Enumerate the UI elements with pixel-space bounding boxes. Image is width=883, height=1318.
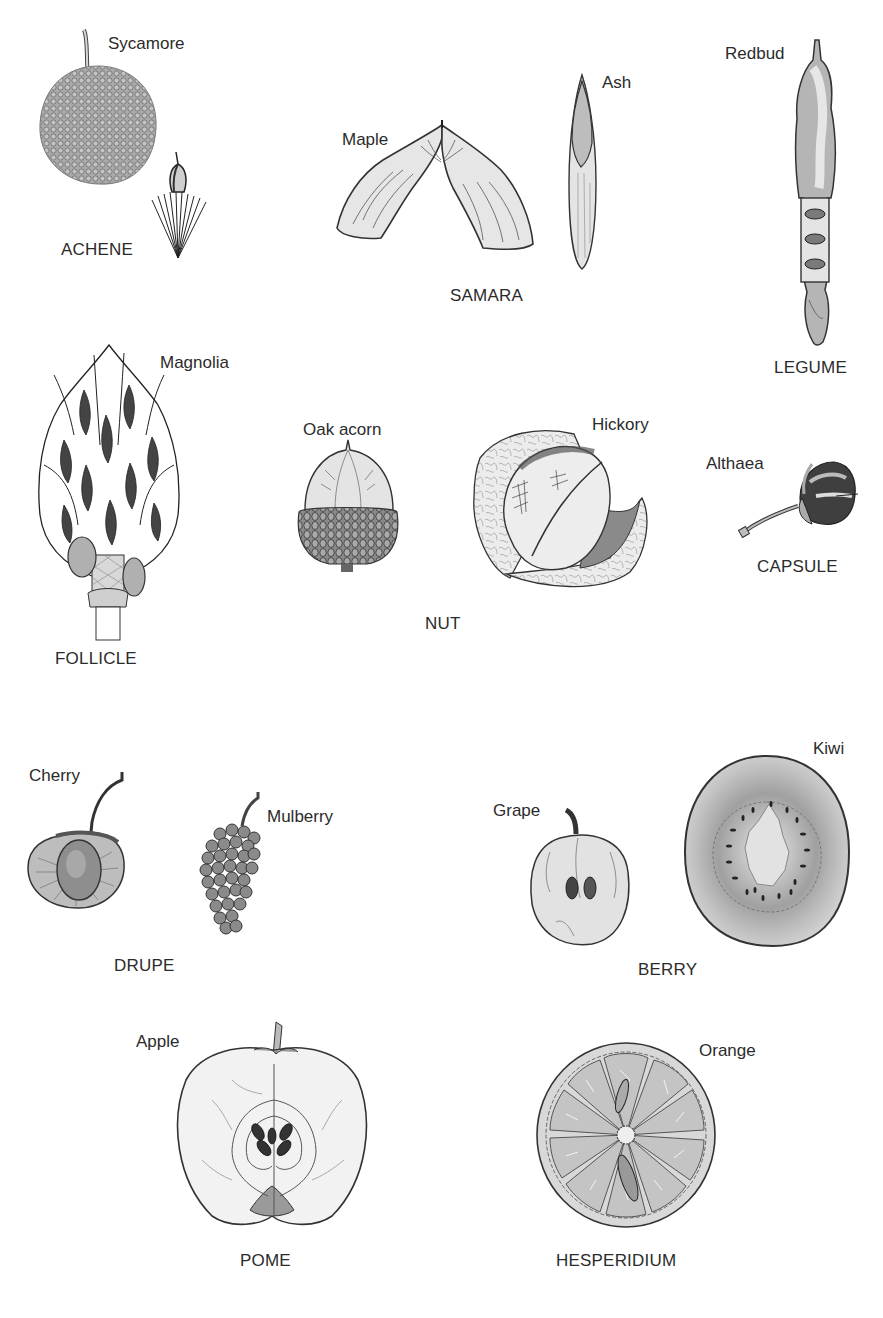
apple-illustration — [172, 1020, 372, 1230]
kiwi-illustration — [683, 752, 853, 948]
redbud-legume-illustration — [785, 38, 847, 348]
ash-samara-illustration — [566, 73, 600, 273]
example-label-cherry: Cherry — [29, 767, 80, 784]
example-label-maple: Maple — [342, 131, 388, 148]
hickory-nut-illustration — [470, 418, 650, 598]
orange-illustration — [534, 1040, 719, 1230]
category-label-hesperidium: HESPERIDIUM — [556, 1252, 676, 1269]
category-label-drupe: DRUPE — [114, 957, 175, 974]
magnolia-follicle-illustration — [34, 345, 184, 640]
example-label-hickory: Hickory — [592, 416, 649, 433]
example-label-mulberry: Mulberry — [267, 808, 333, 825]
example-label-kiwi: Kiwi — [813, 740, 844, 757]
category-label-follicle: FOLLICLE — [55, 650, 137, 667]
example-label-sycamore: Sycamore — [108, 35, 185, 52]
category-label-legume: LEGUME — [774, 359, 847, 376]
example-label-redbud: Redbud — [725, 45, 785, 62]
example-label-grape: Grape — [493, 802, 540, 819]
achene-seed-illustration — [150, 148, 210, 263]
example-label-orange: Orange — [699, 1042, 756, 1059]
category-label-samara: SAMARA — [450, 287, 523, 304]
grape-illustration — [530, 808, 636, 948]
category-label-capsule: CAPSULE — [757, 558, 838, 575]
category-label-nut: NUT — [425, 615, 461, 632]
oak-acorn-illustration — [295, 440, 401, 575]
example-label-oak-acorn: Oak acorn — [303, 421, 381, 438]
example-label-ash: Ash — [602, 74, 631, 91]
category-label-pome: POME — [240, 1252, 291, 1269]
mulberry-illustration — [198, 792, 262, 938]
category-label-berry: BERRY — [638, 961, 697, 978]
example-label-apple: Apple — [136, 1033, 179, 1050]
cherry-illustration — [26, 772, 126, 912]
example-label-althaea: Althaea — [706, 455, 764, 472]
example-label-magnolia: Magnolia — [160, 354, 229, 371]
category-label-achene: ACHENE — [61, 241, 133, 258]
